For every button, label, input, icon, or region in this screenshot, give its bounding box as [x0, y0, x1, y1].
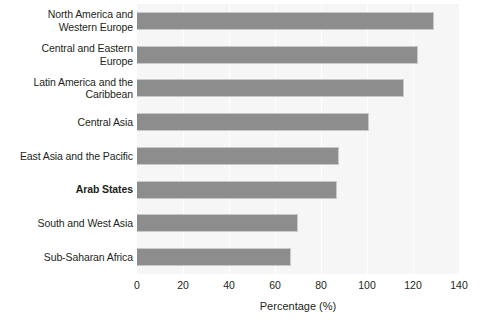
bar: [137, 248, 291, 266]
gridline-120: [413, 4, 414, 274]
category-label-line: North America and: [0, 8, 133, 21]
x-axis-title: Percentage (%): [137, 300, 459, 312]
bar: [137, 113, 369, 131]
x-tick-label: 60: [269, 278, 281, 292]
category-label: Sub-Saharan Africa: [0, 251, 133, 264]
bar: [137, 46, 418, 64]
category-label-line: East Asia and the Pacific: [0, 150, 133, 163]
category-label-line: Western Europe: [0, 21, 133, 34]
category-label-line: Central Asia: [0, 116, 133, 129]
x-axis-tick-labels: 020406080100120140: [137, 278, 459, 294]
bar-chart: North America andWestern EuropeCentral a…: [0, 0, 482, 328]
gridline-80: [321, 4, 322, 274]
category-label: North America andWestern Europe: [0, 8, 133, 33]
gridline-40: [229, 4, 230, 274]
category-axis: North America andWestern EuropeCentral a…: [0, 0, 133, 276]
x-tick-label: 0: [134, 278, 140, 292]
category-label-line: South and West Asia: [0, 217, 133, 230]
gridline-60: [275, 4, 276, 274]
plot-area: [137, 4, 459, 274]
category-label-line: Arab States: [0, 183, 133, 196]
category-label: Central and EasternEurope: [0, 42, 133, 67]
category-label: South and West Asia: [0, 217, 133, 230]
category-label-line: Europe: [0, 55, 133, 68]
category-label-line: Latin America and the: [0, 76, 133, 89]
x-tick-label: 80: [315, 278, 327, 292]
gridline-20: [183, 4, 184, 274]
category-label-line: Central and Eastern: [0, 42, 133, 55]
category-label-line: Sub-Saharan Africa: [0, 251, 133, 264]
x-tick-label: 120: [404, 278, 422, 292]
x-tick-label: 100: [358, 278, 376, 292]
category-label: Central Asia: [0, 116, 133, 129]
bar: [137, 12, 434, 30]
bar: [137, 147, 339, 165]
category-label: Arab States: [0, 183, 133, 196]
category-label: Latin America and theCaribbean: [0, 76, 133, 101]
gridline-100: [367, 4, 368, 274]
category-label-line: Caribbean: [0, 88, 133, 101]
x-tick-label: 20: [177, 278, 189, 292]
bar: [137, 214, 298, 232]
bar: [137, 79, 404, 97]
x-tick-label: 40: [223, 278, 235, 292]
bar: [137, 181, 337, 199]
category-label: East Asia and the Pacific: [0, 150, 133, 163]
x-tick-label: 140: [450, 278, 468, 292]
